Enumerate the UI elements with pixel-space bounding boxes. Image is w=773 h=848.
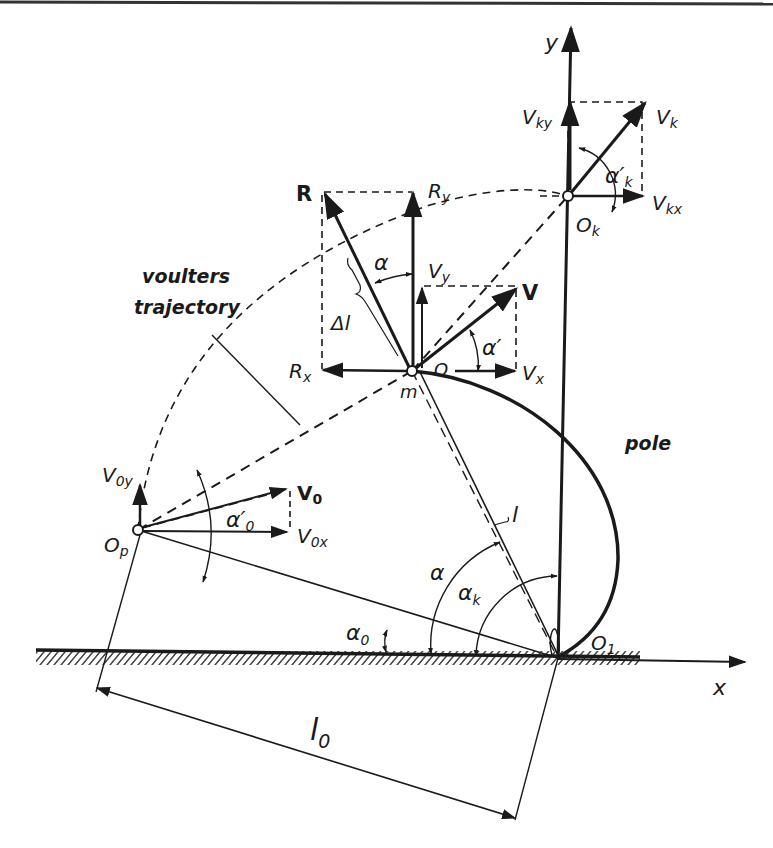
- alpha-label-m: α: [374, 250, 389, 275]
- l-brace: [494, 517, 509, 525]
- pole-vault-diagram: x y l0 Vk Vkx Vky α′k Ok: [0, 0, 773, 848]
- voulters-trajectory-arc: [138, 190, 568, 530]
- alphak-label: αk: [458, 580, 482, 608]
- alpha0-prime-arc: [197, 470, 211, 582]
- o1-label: O1: [591, 631, 616, 657]
- l-label: l: [512, 502, 518, 527]
- alphak-prime-label: α′k: [605, 163, 634, 190]
- delta-l-brace: [348, 258, 399, 356]
- l0-dimension: [97, 688, 515, 818]
- ry-label: Ry: [428, 179, 451, 205]
- alpha0-arc: [385, 630, 387, 652]
- alpha-arc-m: [375, 274, 412, 283]
- x-axis-label: x: [712, 675, 727, 700]
- r-arrow: [325, 194, 410, 369]
- ground: [36, 650, 640, 665]
- ok-label: Ok: [576, 213, 601, 239]
- v0x-arrow: [144, 531, 287, 532]
- rx-arrow: [323, 370, 408, 371]
- v0x-label: V0x: [297, 524, 329, 550]
- v0-label: V0: [297, 481, 322, 507]
- m-label: m: [400, 381, 418, 402]
- alpha0-prime-label: α′0: [226, 507, 255, 534]
- o-label: O: [434, 359, 448, 380]
- y-axis-label: y: [544, 30, 559, 55]
- l0-label: l0: [310, 712, 330, 752]
- pole-label: pole: [624, 432, 671, 454]
- trajectory-label-line2: trajectory: [134, 296, 241, 318]
- v-label: V: [522, 281, 539, 305]
- op-label: Op: [104, 533, 129, 559]
- alpha-prime-arc: [470, 330, 478, 371]
- vk-label: Vk: [656, 105, 679, 131]
- top-border: [0, 2, 773, 4]
- vx-label: Vx: [522, 361, 545, 387]
- l0-ext-right: [515, 658, 558, 820]
- v0-arrow: [144, 489, 286, 527]
- alpha0-label: α0: [346, 620, 370, 648]
- v0y-label: V0y: [102, 463, 134, 489]
- delta-l-label: Δl: [329, 311, 351, 335]
- alpha-ground-label: α: [430, 560, 445, 585]
- l0-ext-left: [96, 535, 140, 692]
- ok-vector-group: [540, 102, 645, 212]
- alphak-arc: [476, 576, 557, 656]
- rx-label: Rx: [289, 359, 312, 385]
- vy-label: Vy: [428, 259, 451, 285]
- trajectory-pointer: [212, 335, 300, 425]
- trajectory-label-line1: voulters: [142, 265, 230, 287]
- vkx-label: Vkx: [652, 191, 683, 217]
- alpha-prime-label: α′: [482, 335, 502, 360]
- vky-label: Vky: [522, 105, 553, 131]
- r-label: R: [296, 182, 312, 206]
